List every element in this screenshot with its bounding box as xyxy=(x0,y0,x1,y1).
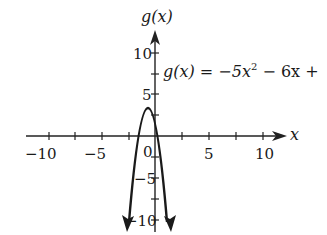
y-tick-label-5: 5 xyxy=(142,86,152,104)
parabola-curve xyxy=(129,108,167,222)
equation-suffix: − 6x + xyxy=(257,62,318,81)
y-tick-label-neg5: −5 xyxy=(134,170,156,188)
y-tick-label-neg10: −10 xyxy=(125,212,157,230)
x-tick-label-neg5: −5 xyxy=(84,145,106,163)
x-tick-label-neg10: −10 xyxy=(25,145,57,163)
equation-label: g(x) = −5x2 − 6x + xyxy=(163,61,319,81)
x-axis-label: x xyxy=(290,125,299,144)
y-axis-label: g(x) xyxy=(141,7,173,26)
curve-arrow-right-icon xyxy=(164,215,176,232)
x-tick-label-0: 0 xyxy=(143,143,153,161)
y-tick-label-10: 10 xyxy=(133,45,152,63)
function-graph: g(x) x −10 −5 0 5 10 10 5 −5 −10 g(x) = … xyxy=(0,0,327,235)
x-tick-label-5: 5 xyxy=(204,145,214,163)
equation-prefix: g(x) = −5x xyxy=(163,62,251,81)
x-tick-label-10: 10 xyxy=(255,145,274,163)
